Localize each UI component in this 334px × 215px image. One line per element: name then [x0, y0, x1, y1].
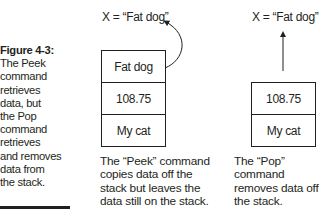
- caption-line: command: [0, 70, 76, 83]
- caption-line: the Pop: [0, 110, 76, 123]
- figure-title: Figure 4-3:: [0, 44, 76, 57]
- caption-rule-divider: [0, 206, 70, 209]
- figure-caption: Figure 4-3: The Peek command retrieves d…: [0, 44, 76, 189]
- peek-description-line: data still on the stack.: [100, 195, 240, 208]
- pop-stack-cell-bottom: My cat: [252, 114, 315, 146]
- caption-line: data from: [0, 163, 76, 176]
- peek-result-label: X = “Fat dog”: [102, 10, 168, 24]
- peek-stack-cell-bottom: My cat: [102, 114, 165, 146]
- pop-result-label: X = “Fat dog”: [252, 10, 318, 24]
- caption-line: the stack.: [0, 176, 76, 189]
- pop-description-line: the stack.: [234, 195, 334, 208]
- caption-line: command: [0, 123, 76, 136]
- peek-description-line: stack but leaves the: [100, 182, 240, 195]
- caption-line: data, but: [0, 97, 76, 110]
- pop-description-line: removes data off: [234, 182, 334, 195]
- caption-line: retrieves: [0, 136, 76, 149]
- pop-stack: 108.75 My cat: [251, 82, 316, 147]
- caption-line: The Peek: [0, 57, 76, 70]
- peek-stack-cell-middle: 108.75: [102, 82, 165, 114]
- peek-description: The “Peek” command copies data off the s…: [100, 155, 240, 209]
- caption-line: retrieves: [0, 84, 76, 97]
- pop-description: The “Pop” command removes data off the s…: [234, 155, 334, 209]
- peek-description-line: copies data off the: [100, 168, 240, 181]
- peek-curved-arrow-icon: [165, 22, 182, 68]
- caption-line: and removes: [0, 150, 76, 163]
- peek-stack-cell-top: Fat dog: [102, 51, 165, 82]
- pop-stack-cell-top: 108.75: [252, 83, 315, 114]
- pop-description-line: The “Pop” command: [234, 155, 334, 182]
- peek-stack: Fat dog 108.75 My cat: [101, 50, 166, 147]
- peek-description-line: The “Peek” command: [100, 155, 240, 168]
